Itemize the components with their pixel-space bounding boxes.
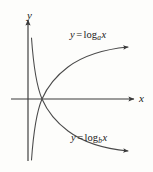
curve-label-b-lhs: y xyxy=(71,132,76,143)
x-axis-label: x xyxy=(139,93,144,104)
curve-label-b-function: log xyxy=(85,132,98,143)
curve-label-log-base-b: y=logbx xyxy=(71,133,107,145)
logarithm-graph-figure: y x y=logax y=logbx xyxy=(0,0,153,172)
curve-label-a-function: log xyxy=(84,29,97,40)
curve-label-a-equals: = xyxy=(75,29,84,40)
curve-label-log-base-a: y=logax xyxy=(70,30,106,42)
curve-label-a-argument: x xyxy=(101,29,106,40)
curve-label-b-argument: x xyxy=(102,132,107,143)
y-axis-label: y xyxy=(27,10,32,21)
curve-label-b-equals: = xyxy=(76,132,85,143)
plot-canvas xyxy=(0,0,153,172)
curve-label-a-lhs: y xyxy=(70,29,75,40)
